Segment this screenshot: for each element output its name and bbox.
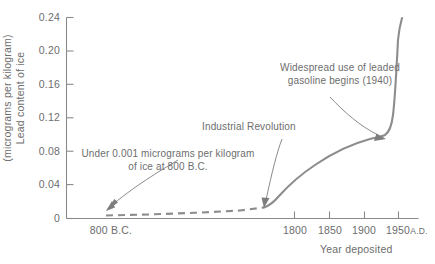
x-tick-label-ad: A.D.	[406, 226, 432, 237]
x-axis-title: Year deposited	[320, 243, 392, 256]
annotation-early-ice-line1: Under 0.001 micrograms per kilogram	[72, 148, 264, 161]
y-tick-label-0: 0	[24, 212, 60, 225]
x-axis-ticks	[295, 212, 399, 219]
y-tick-label-0.08: 0.08	[24, 145, 60, 158]
annotation-leaded-gasoline-line1: Widespread use of leaded	[262, 62, 418, 75]
y-tick-label-0.16: 0.16	[24, 78, 60, 91]
y-axis-title-line1: Lead content of ice	[14, 10, 27, 186]
y-tick-label-0.20: 0.20	[24, 44, 60, 57]
annotation-leader-leaded-gasoline	[330, 97, 386, 141]
annotation-leaded-gasoline-line2: gasoline begins (1940)	[262, 75, 418, 88]
x-tick-label-1800: 1800	[275, 224, 315, 237]
x-tick-label-800bc: 800 B.C.	[80, 224, 142, 237]
y-tick-label-0.04: 0.04	[24, 178, 60, 191]
series-dashed-estimated	[106, 207, 264, 215]
y-axis-ticks	[67, 18, 74, 219]
annotation-early-ice: Under 0.001 micrograms per kilogram of i…	[72, 148, 264, 174]
y-tick-label-0.24: 0.24	[24, 11, 60, 24]
annotation-industrial-revolution: Industrial Revolution	[202, 121, 296, 134]
annotation-leaded-gasoline: Widespread use of leaded gasoline begins…	[262, 62, 418, 88]
lead-content-chart-figure: 0.24 0.20 0.16 0.12 0.08 0.04 0 Lead con…	[0, 0, 435, 264]
annotation-industrial-revolution-line1: Industrial Revolution	[202, 121, 296, 134]
y-axis-title-line2: (micrograms per kilogram)	[1, 0, 14, 196]
y-tick-label-0.12: 0.12	[24, 111, 60, 124]
series-solid-measured	[264, 18, 402, 207]
annotation-early-ice-line2: of ice at 800 B.C.	[72, 161, 264, 174]
